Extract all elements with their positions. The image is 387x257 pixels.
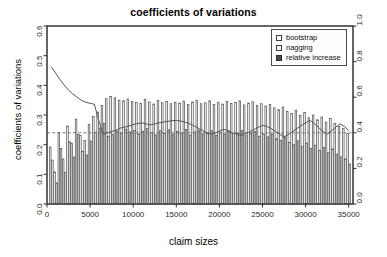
bar-nagging [134,130,136,204]
bar-nagging [293,145,295,204]
x-tick-label: 5000 [68,210,112,219]
bar-bootstrap [58,133,60,205]
bar-nagging [246,136,248,204]
bar-bootstrap [179,103,181,204]
y2-tick-label: 0.2 [355,142,364,168]
bar-nagging [267,137,269,204]
bar-nagging [289,142,291,204]
bar-nagging [345,159,347,204]
bar-bootstrap [338,126,340,204]
bar-nagging [52,160,54,204]
bar-bootstrap [166,101,168,204]
bar-nagging [146,129,148,204]
bar-bootstrap [200,104,202,204]
bar-nagging [215,135,217,204]
bar-nagging [95,132,97,204]
bar-nagging [177,132,179,204]
bar-bootstrap [256,106,258,204]
bar-nagging [129,132,131,204]
bar-bootstrap [136,103,138,204]
bar-nagging [121,133,123,204]
bar-bootstrap [282,107,284,204]
bar-bootstrap [105,99,107,204]
y2-tick-label: 0.6 [355,71,364,97]
bar-bootstrap [286,111,288,204]
bar-nagging [276,139,278,204]
bar-nagging [198,130,200,204]
bar-bootstrap [347,133,349,204]
y2-tick-label: 0.8 [355,35,364,61]
bar-bootstrap [71,143,73,204]
bar-nagging [228,131,230,204]
bar-nagging [164,133,166,204]
bar-nagging [224,135,226,204]
y-axis-label: coefficients of variations [12,30,23,190]
bar-bootstrap [274,108,276,204]
bar-bootstrap [54,172,56,204]
y-tick-label: 0.4 [35,85,44,111]
bar-nagging [99,128,101,204]
bar-bootstrap [235,103,237,204]
bar-bootstrap [97,112,99,204]
bar-nagging [202,134,204,204]
bar-bootstrap [295,110,297,204]
bar-nagging [241,130,243,204]
bar-bootstrap [93,116,95,204]
bar-bootstrap [248,103,250,204]
bar-nagging [190,135,192,204]
bar-bootstrap [213,105,215,204]
chart-figure: coefficients of variations coefficients … [0,0,387,257]
bar-nagging [181,133,183,204]
y-tick-label: 0.2 [35,144,44,170]
bar-nagging [332,149,334,204]
bar-nagging [327,153,329,204]
bar-bootstrap [226,101,228,204]
bar-bootstrap [222,104,224,204]
y-tick-label: 0.0 [35,204,44,230]
bar-bootstrap [218,102,220,204]
bar-bootstrap [67,126,69,204]
bar-nagging [336,154,338,204]
x-tick-label: 20000 [197,210,241,219]
bar-bootstrap [114,98,116,204]
bar-nagging [69,142,71,204]
bar-nagging [306,143,308,204]
legend-swatch-icon [276,45,282,51]
bar-bootstrap [343,128,345,204]
x-tick-label: 25000 [240,210,284,219]
legend-swatch-icon [276,35,282,41]
bar-nagging [340,157,342,204]
bar-bootstrap [75,119,77,204]
bar-nagging [271,135,273,204]
bar-bootstrap [304,113,306,204]
bar-nagging [73,157,75,204]
bar-bootstrap [308,118,310,204]
bar-nagging [77,134,79,204]
bar-nagging [297,141,299,204]
bar-bootstrap [209,101,211,204]
legend-item-nagging: nagging [276,43,341,52]
bar-nagging [82,151,84,204]
bar-bootstrap [149,102,151,204]
legend-item-bootstrap: bootstrap [276,33,341,42]
bar-nagging [220,132,222,204]
x-tick-label: 35000 [327,210,371,219]
x-axis-label: claim sizes [0,236,387,247]
bar-bootstrap [153,104,155,204]
bar-bootstrap [334,124,336,204]
bar-bootstrap [265,106,267,204]
bar-bootstrap [239,101,241,204]
bar-nagging [315,145,317,204]
bar-bootstrap [261,104,263,204]
bar-bootstrap [131,101,133,204]
bar-bootstrap [312,115,314,204]
bar-nagging [155,135,157,204]
y-tick-label: 0.3 [35,115,44,141]
y2-tick-label: 0.0 [355,178,364,204]
bar-nagging [302,146,304,204]
bar-nagging [172,134,174,204]
bar-nagging [159,131,161,204]
legend-label: bootstrap [286,34,317,42]
y-tick-label: 0.1 [35,174,44,200]
bar-bootstrap [84,141,86,204]
